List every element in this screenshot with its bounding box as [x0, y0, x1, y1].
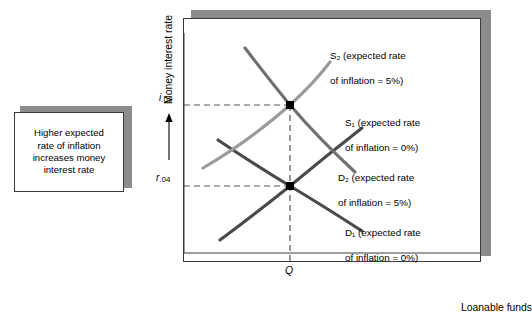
y-tick-i: i.09	[159, 92, 172, 104]
curve-label-s2-line2: of inflation = 5%)	[330, 75, 403, 86]
y-tick-r: r.04	[156, 172, 170, 184]
rate-increase-arrow-head	[165, 113, 172, 122]
curve-label-s1: S₁ (expected rate of inflation = 0%)	[345, 105, 420, 154]
y-tick-r-value: .04	[159, 175, 170, 184]
x-tick-q: Q	[285, 264, 293, 276]
equilibrium-point-lower	[286, 182, 294, 190]
y-tick-i-value: .09	[161, 95, 172, 104]
curve-label-d2-line2: of inflation = 5%)	[338, 197, 411, 208]
curve-label-s1-line1: S₁ (expected rate	[345, 117, 420, 128]
curve-label-d2: D₂ (expected rate of inflation = 5%)	[338, 160, 414, 209]
curve-label-d1-line1: D₁ (expected rate	[345, 227, 421, 238]
curve-label-s2-line1: S₂ (expected rate	[330, 50, 406, 61]
curve-label-d2-line1: D₂ (expected rate	[338, 172, 414, 183]
curve-label-d1: D₁ (expected rate of inflation = 0%)	[345, 215, 421, 264]
curve-label-s2: S₂ (expected rate of inflation = 5%)	[330, 38, 406, 87]
equilibrium-point-upper	[286, 101, 294, 109]
curve-label-d1-line2: of inflation = 0%)	[345, 252, 418, 263]
curve-label-s1-line2: of inflation = 0%)	[345, 142, 418, 153]
